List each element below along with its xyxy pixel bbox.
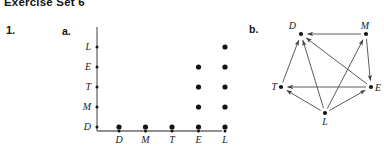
scatter-point-ED xyxy=(196,124,201,129)
scatter-point-LM xyxy=(222,104,227,109)
node-E xyxy=(369,85,373,89)
node-label-M: M xyxy=(360,20,370,31)
y-tick-label-T: T xyxy=(85,81,92,92)
x-tick-dot xyxy=(224,130,227,133)
node-label-D: D xyxy=(288,20,297,31)
edge-M-to-E xyxy=(366,39,370,81)
page-title: Exercise Set 6 xyxy=(4,0,85,8)
scatter-svg: DMTEL DMTEL xyxy=(70,18,230,148)
y-tick-dot xyxy=(96,46,99,49)
x-axis-tick-labels: DMTEL xyxy=(114,130,228,146)
x-tick-label-D: D xyxy=(114,134,123,145)
digraph-svg: DMTEL xyxy=(255,16,383,146)
edge-T-to-D xyxy=(283,40,299,82)
y-tick-label-D: D xyxy=(83,121,92,132)
x-tick-label-T: T xyxy=(169,134,176,145)
digraph-node-labels: DMTEL xyxy=(271,20,381,127)
x-tick-label-E: E xyxy=(194,134,201,145)
y-tick-dot xyxy=(96,126,99,129)
edge-L-to-M xyxy=(327,40,363,109)
y-tick-label-M: M xyxy=(82,101,92,112)
node-M xyxy=(364,32,368,36)
scatter-point-LT xyxy=(222,84,227,89)
scatter-point-LE xyxy=(222,64,227,69)
y-tick-label-E: E xyxy=(84,61,91,72)
node-label-L: L xyxy=(321,116,328,127)
node-label-T: T xyxy=(271,81,278,92)
node-L xyxy=(323,111,327,115)
edge-E-to-D xyxy=(306,38,367,84)
scatter-point-DD xyxy=(116,124,121,129)
node-label-E: E xyxy=(374,82,381,93)
x-tick-dot xyxy=(171,130,174,133)
y-axis-tick-labels: DMTEL xyxy=(82,41,99,132)
y-tick-label-L: L xyxy=(84,41,91,52)
node-D xyxy=(299,32,303,36)
digraph-nodes xyxy=(279,32,373,115)
x-tick-dot xyxy=(197,130,200,133)
scatter-points xyxy=(116,44,227,129)
digraph-edges xyxy=(283,34,371,111)
edge-L-to-T xyxy=(287,90,321,110)
x-tick-dot xyxy=(118,130,121,133)
scatter-point-EM xyxy=(196,104,201,109)
scatter-point-TD xyxy=(169,124,174,129)
relation-scatter-plot: DMTEL DMTEL xyxy=(70,18,230,148)
worksheet-page: Exercise Set 6 1. a. b. DMTEL DMTEL DMTE… xyxy=(0,0,384,164)
edge-L-to-D xyxy=(303,40,324,108)
scatter-point-LL xyxy=(222,44,227,49)
plot-axes xyxy=(97,27,222,131)
problem-number: 1. xyxy=(6,24,15,36)
scatter-point-LD xyxy=(222,124,227,129)
y-tick-dot xyxy=(96,86,99,89)
scatter-point-MD xyxy=(143,124,148,129)
scatter-point-ET xyxy=(196,84,201,89)
node-T xyxy=(279,85,283,89)
x-tick-label-M: M xyxy=(140,134,150,145)
x-tick-dot xyxy=(144,130,147,133)
x-tick-label-L: L xyxy=(221,134,228,145)
relation-digraph: DMTEL xyxy=(255,16,383,146)
y-tick-dot xyxy=(96,106,99,109)
scatter-point-EE xyxy=(196,64,201,69)
y-tick-dot xyxy=(96,66,99,69)
